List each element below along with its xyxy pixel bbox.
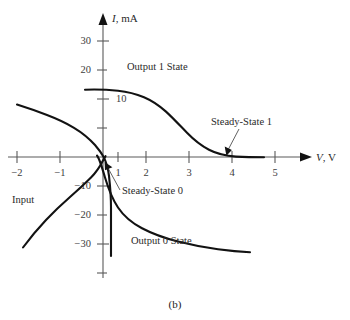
x-tick-label: 5 xyxy=(272,167,277,178)
x-tick-label: 3 xyxy=(186,167,191,178)
y-tick-label: 10 xyxy=(116,93,127,104)
annotation-label-steady-state-0: Steady-State 0 xyxy=(122,185,183,196)
annotation-steady-state-1: Steady-State 1 xyxy=(211,116,272,156)
annotation-leader-steady-state-1 xyxy=(228,129,239,150)
y-tick-label: 20 xyxy=(81,64,92,75)
x-tick-label: 1 xyxy=(115,167,120,178)
figure-caption-wrap: (b) xyxy=(0,294,350,312)
x-axis-arrowhead xyxy=(300,153,312,162)
x-axis-title-unit: , V xyxy=(323,151,336,163)
iv-characteristic-chart: −2 −1 1 2 3 4 5 30 20 10 −10 −20 −30 V, … xyxy=(0,0,350,320)
x-axis-title: V, V xyxy=(316,151,336,163)
annotation-label-steady-state-1: Steady-State 1 xyxy=(211,116,272,127)
figure-panel: −2 −1 1 2 3 4 5 30 20 10 −10 −20 −30 V, … xyxy=(0,0,350,320)
x-tick-label: 2 xyxy=(143,167,148,178)
y-axis-title-unit: , mA xyxy=(116,12,138,24)
y-axis-tick-labels: 30 20 10 −10 −20 −30 xyxy=(75,35,127,249)
x-tick-label: −1 xyxy=(54,167,65,178)
y-tick-label: 30 xyxy=(81,35,92,46)
series-label-output-0-state: Output 0 State xyxy=(131,235,192,246)
y-axis-arrowhead xyxy=(99,13,108,25)
y-axis-title: I, mA xyxy=(111,12,138,24)
x-axis-tick-labels: −2 −1 1 2 3 4 5 xyxy=(11,167,277,178)
x-tick-label: −2 xyxy=(11,167,22,178)
y-tick-label: −30 xyxy=(75,238,91,249)
series-label-output-1-state: Output 1 State xyxy=(127,61,188,72)
series-label-input: Input xyxy=(12,194,34,205)
curve-input-upper xyxy=(17,105,111,256)
x-tick-label: 4 xyxy=(229,167,235,178)
y-tick-label: −20 xyxy=(75,209,91,220)
figure-caption: (b) xyxy=(169,298,182,310)
